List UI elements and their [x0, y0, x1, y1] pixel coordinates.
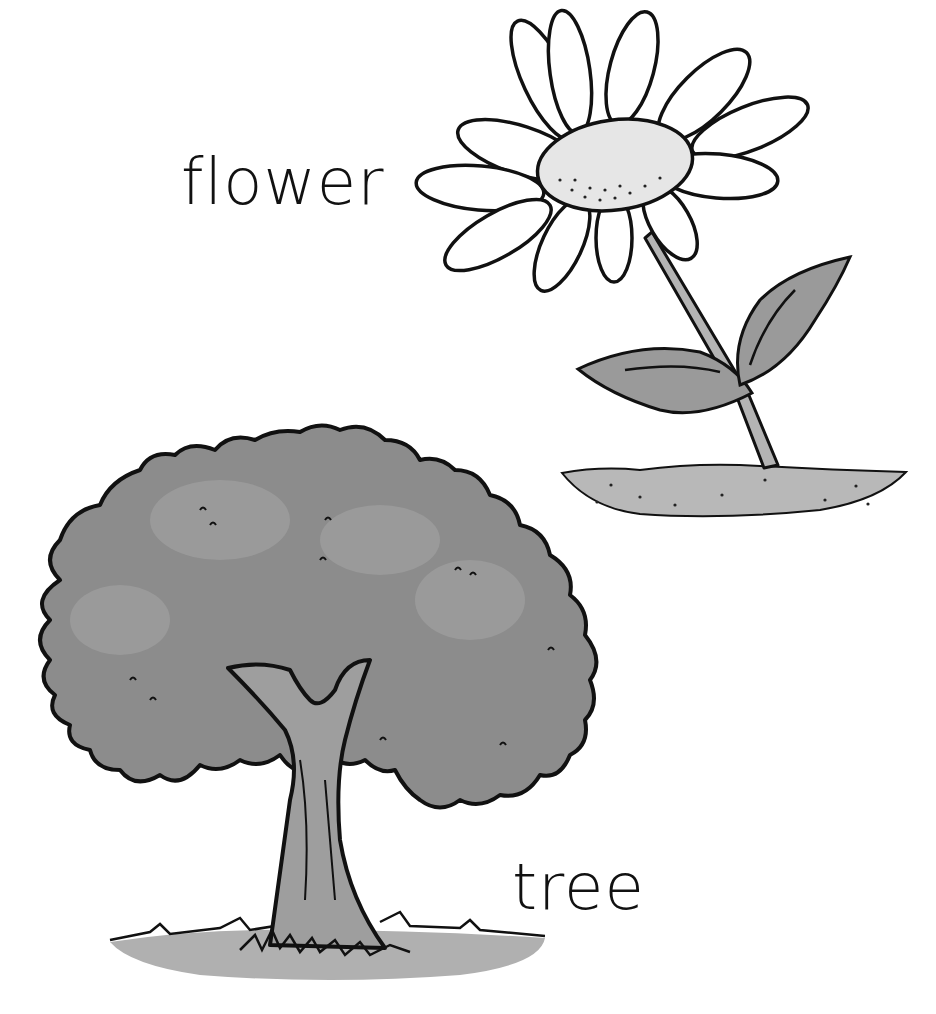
flower-label: flower	[181, 150, 385, 214]
tree-illustration	[0, 0, 936, 1014]
illustration-canvas: flower tree	[0, 0, 936, 1014]
tree-label: tree	[512, 855, 645, 919]
